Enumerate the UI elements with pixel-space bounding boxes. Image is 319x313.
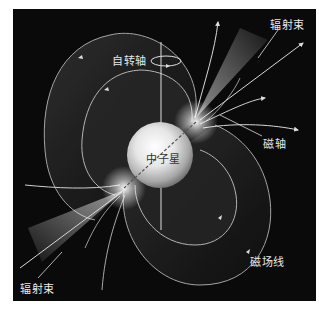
label-neutron-star: 中子星: [146, 150, 181, 166]
neutron-star-diagram: 自转轴 辐射束 磁轴 中子星 磁场线 辐射束: [0, 0, 319, 313]
label-spin-axis: 自转轴: [112, 52, 147, 68]
label-radiation-beam-bottom: 辐射束: [20, 280, 55, 296]
label-radiation-beam-top: 辐射束: [270, 16, 305, 32]
label-field-lines: 磁场线: [250, 253, 285, 269]
label-magnetic-axis: 磁轴: [263, 135, 286, 151]
